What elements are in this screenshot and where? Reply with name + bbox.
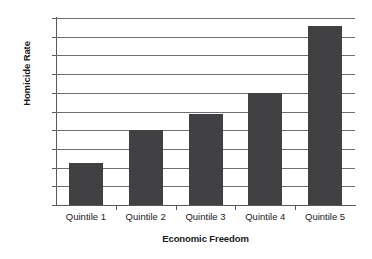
x-tick-mark [295,205,296,210]
y-axis-title: Homicide Rate [21,4,32,144]
plot-area [56,18,355,205]
bar [129,130,163,205]
y-tick-mark [52,205,56,206]
x-tick-mark [176,205,177,210]
x-axis-title: Economic Freedom [56,233,355,244]
bar [189,114,223,205]
x-tick-mark [235,205,236,210]
bar [248,93,282,205]
x-tick-mark [116,205,117,210]
x-axis-line [56,205,356,206]
bar [69,163,103,205]
bar-series [56,18,355,205]
x-tick-label: Quintile 5 [290,212,360,222]
bar [308,26,342,205]
bar-chart: Homicide Rate 02468101214161820 Quintile… [0,0,372,259]
